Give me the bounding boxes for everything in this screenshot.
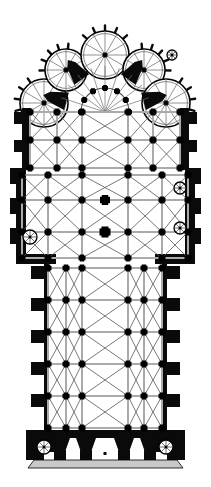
- nave-pier: [126, 362, 131, 367]
- choir-pier: [28, 138, 33, 143]
- choir-pier: [178, 138, 183, 143]
- transept-pier: [186, 173, 191, 178]
- choir-buttress-left: [14, 140, 28, 152]
- facade-center-marker: [104, 452, 107, 455]
- crossing-pier: [102, 197, 109, 204]
- transept-pier: [46, 230, 51, 235]
- nave-pier: [46, 266, 51, 271]
- chapel-nw-outer-keystone: [42, 101, 45, 104]
- nave-buttress-right: [166, 266, 180, 279]
- apse-pier: [115, 89, 119, 93]
- choir-pier: [55, 166, 60, 171]
- transept-pier: [20, 256, 25, 261]
- nave-pier: [64, 426, 69, 431]
- stair-transept-right-lo-newel: [179, 227, 182, 230]
- transept-pier: [20, 198, 25, 203]
- nave-pier: [64, 394, 69, 399]
- nave-pier: [80, 426, 85, 431]
- transept-pier: [160, 173, 165, 178]
- choir-pier: [151, 166, 156, 171]
- transept-pier: [20, 173, 25, 178]
- nave-pier: [64, 298, 69, 303]
- portal-pier-base: [118, 450, 130, 460]
- nave-pier: [160, 394, 165, 399]
- choir-pier: [151, 110, 156, 115]
- stair-facade-right-newel: [165, 446, 168, 449]
- nave-pier: [142, 298, 147, 303]
- choir-pier: [55, 110, 60, 115]
- choir-pier: [126, 110, 131, 115]
- nave-pier: [80, 394, 85, 399]
- transept-pier: [46, 173, 51, 178]
- choir-pier: [126, 166, 131, 171]
- transept-pier: [186, 256, 191, 261]
- nave-pier: [160, 330, 165, 335]
- transept-pier: [186, 230, 191, 235]
- transept-pier: [46, 198, 51, 203]
- nave-pier: [64, 362, 69, 367]
- nave-pier: [126, 330, 131, 335]
- nave-pier: [126, 266, 131, 271]
- choir-buttress-right: [183, 140, 197, 152]
- nave-buttress-left: [31, 298, 45, 311]
- choir-pier: [80, 138, 85, 143]
- nave-pier: [126, 298, 131, 303]
- transept-pier: [126, 256, 131, 261]
- transept-pier: [126, 173, 131, 178]
- portal-pier-base: [54, 450, 66, 460]
- stair-facade-left-newel: [43, 446, 46, 449]
- nave-pier: [46, 330, 51, 335]
- transept-pier: [160, 230, 165, 235]
- apse-pier: [82, 98, 86, 102]
- nave-pier: [142, 426, 147, 431]
- transept-pier: [80, 256, 85, 261]
- transept-pier: [80, 230, 85, 235]
- cathedral-floor-plan: [0, 0, 211, 487]
- nave-pier: [80, 298, 85, 303]
- nave-pier: [142, 330, 147, 335]
- nave-pier: [142, 362, 147, 367]
- stair-transept-left-newel: [29, 236, 32, 239]
- nave-pier: [46, 362, 51, 367]
- choir-buttress-right: [183, 112, 197, 124]
- transept-pier: [160, 256, 165, 261]
- transept-pier: [126, 230, 131, 235]
- choir-pier: [178, 110, 183, 115]
- choir-pier: [178, 166, 183, 171]
- choir-buttress-left: [14, 112, 28, 124]
- stair-transept-right-up-newel: [179, 187, 182, 190]
- transept-pier: [80, 173, 85, 178]
- nave-pier: [126, 426, 131, 431]
- nave-pier: [160, 426, 165, 431]
- chapel-nw-inner-keystone: [64, 68, 67, 71]
- nave-pier: [126, 394, 131, 399]
- chapel-axial-keystone: [103, 53, 106, 56]
- portal-pier-base: [144, 450, 156, 460]
- stair-chevet-right-newel: [171, 54, 174, 57]
- choir-pier: [28, 166, 33, 171]
- nave-pier: [80, 362, 85, 367]
- nave-buttress-left: [31, 394, 45, 407]
- transept-pier: [46, 256, 51, 261]
- choir-pier: [28, 110, 33, 115]
- apse-pier: [103, 86, 107, 90]
- nave-buttress-left: [31, 330, 45, 343]
- choir-pier: [80, 110, 85, 115]
- nave-pier: [80, 330, 85, 335]
- transept-pier: [186, 198, 191, 203]
- nave-pier: [142, 394, 147, 399]
- apse-pier: [124, 98, 128, 102]
- nave-buttress-left: [31, 362, 45, 375]
- apse-pier: [91, 89, 95, 93]
- nave-pier: [46, 426, 51, 431]
- transept-pier: [160, 198, 165, 203]
- nave-pier: [46, 298, 51, 303]
- choir-pier: [126, 138, 131, 143]
- nave-pier: [64, 330, 69, 335]
- chapel-ne-outer-keystone: [164, 101, 167, 104]
- portal-pier-base: [80, 450, 92, 460]
- nave-pier: [80, 266, 85, 271]
- nave-pier: [160, 362, 165, 367]
- nave-buttress-right: [166, 298, 180, 311]
- west-front-steps: [28, 460, 183, 468]
